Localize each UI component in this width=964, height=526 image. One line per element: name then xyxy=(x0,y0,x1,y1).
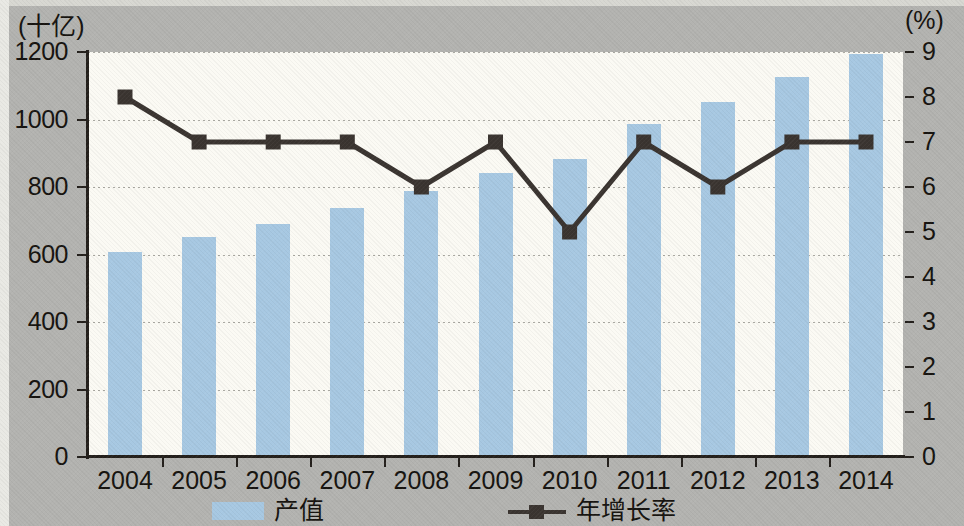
right-axis-tick-label: 4 xyxy=(922,264,936,289)
left-axis-tick-label: 1200 xyxy=(0,39,68,64)
left-axis-tick xyxy=(77,119,86,121)
left-axis-tick xyxy=(77,186,86,188)
left-axis-tick-label: 1000 xyxy=(0,107,68,132)
left-axis-tick-label: 0 xyxy=(0,444,68,469)
right-axis-tick-label: 2 xyxy=(922,354,936,379)
bar xyxy=(627,124,661,457)
chart-page: (十亿) (%) 020040060080010001200 012345678… xyxy=(0,0,964,526)
bar xyxy=(256,224,290,457)
legend-label-produce-value: 产值 xyxy=(274,498,324,523)
bar xyxy=(701,102,735,457)
right-axis-tick xyxy=(905,276,914,278)
bar xyxy=(553,159,587,457)
right-axis-tick xyxy=(905,231,914,233)
bar xyxy=(775,77,809,457)
bar-swatch-icon xyxy=(212,502,264,520)
gridline xyxy=(88,52,903,53)
right-axis-tick-label: 3 xyxy=(922,309,936,334)
bar xyxy=(479,173,513,457)
left-axis-tick xyxy=(77,51,86,53)
legend-label-annual-growth-rate: 年增长率 xyxy=(576,498,676,523)
bar xyxy=(182,237,216,457)
right-axis-tick xyxy=(905,186,914,188)
left-axis-tick xyxy=(77,254,86,256)
left-axis-tick xyxy=(77,389,86,391)
left-axis-tick xyxy=(77,456,86,458)
right-axis-unit-label: (%) xyxy=(905,6,944,35)
right-axis-tick-label: 7 xyxy=(922,129,936,154)
y-axis-line xyxy=(86,50,89,459)
x-axis-tick-label: 2014 xyxy=(811,466,921,495)
right-axis-tick-label: 0 xyxy=(922,444,936,469)
right-axis-tick xyxy=(905,96,914,98)
right-axis-tick xyxy=(905,456,914,458)
bar xyxy=(330,208,364,457)
x-axis-line xyxy=(86,455,905,458)
combo-chart: (十亿) (%) 020040060080010001200 012345678… xyxy=(0,0,964,526)
right-axis-tick-label: 9 xyxy=(922,39,936,64)
right-axis-tick-label: 6 xyxy=(922,174,936,199)
right-axis-tick-label: 5 xyxy=(922,219,936,244)
right-axis-tick xyxy=(905,321,914,323)
bar xyxy=(404,191,438,457)
chart-legend: 产值 年增长率 xyxy=(0,498,964,526)
line-square-marker-icon xyxy=(508,502,566,520)
right-axis-tick xyxy=(905,51,914,53)
legend-item-produce-value: 产值 xyxy=(212,498,324,523)
right-axis-tick xyxy=(905,141,914,143)
left-axis-tick-label: 400 xyxy=(0,309,68,334)
right-axis-tick xyxy=(905,366,914,368)
bar xyxy=(108,252,142,457)
right-axis-tick xyxy=(905,411,914,413)
left-axis-tick-label: 800 xyxy=(0,174,68,199)
right-axis-tick-label: 8 xyxy=(922,84,936,109)
left-axis-tick xyxy=(77,321,86,323)
right-axis-tick-label: 1 xyxy=(922,399,936,424)
left-axis-tick-label: 200 xyxy=(0,377,68,402)
left-axis-tick-label: 600 xyxy=(0,242,68,267)
legend-item-annual-growth-rate: 年增长率 xyxy=(508,498,676,523)
bar xyxy=(849,54,883,457)
